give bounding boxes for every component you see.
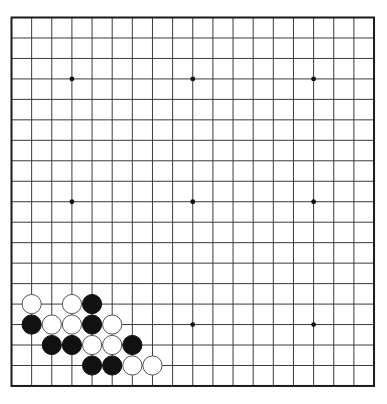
black-stone[interactable] xyxy=(82,356,101,375)
white-stone[interactable] xyxy=(22,294,41,313)
white-stone[interactable] xyxy=(103,315,122,334)
black-stone[interactable] xyxy=(82,294,101,313)
black-stone[interactable] xyxy=(22,315,41,334)
star-point-icon xyxy=(190,199,195,204)
black-stone[interactable] xyxy=(42,335,61,354)
star-point-icon xyxy=(190,77,195,82)
go-board[interactable] xyxy=(0,0,387,404)
white-stone[interactable] xyxy=(62,294,81,313)
go-board-canvas[interactable] xyxy=(0,0,387,404)
white-stone[interactable] xyxy=(62,315,81,334)
star-point-icon xyxy=(311,199,316,204)
star-point-icon xyxy=(70,199,75,204)
black-stone[interactable] xyxy=(82,315,101,334)
white-stone[interactable] xyxy=(82,335,101,354)
black-stone[interactable] xyxy=(123,335,142,354)
star-point-icon xyxy=(311,322,316,327)
black-stone[interactable] xyxy=(62,335,81,354)
star-point-icon xyxy=(311,77,316,82)
star-point-icon xyxy=(190,322,195,327)
star-point-icon xyxy=(70,77,75,82)
black-stone[interactable] xyxy=(103,356,122,375)
white-stone[interactable] xyxy=(143,356,162,375)
white-stone[interactable] xyxy=(123,356,142,375)
white-stone[interactable] xyxy=(103,335,122,354)
white-stone[interactable] xyxy=(42,315,61,334)
